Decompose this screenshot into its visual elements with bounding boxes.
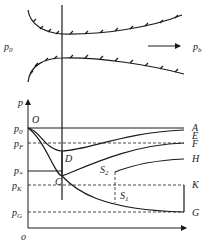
pK-label: pK <box>11 180 22 193</box>
point-D: D <box>64 153 73 164</box>
label-G: G <box>192 207 199 218</box>
pstar-label: p* <box>13 165 23 178</box>
label-H: H <box>191 153 200 164</box>
curve-H <box>115 159 184 172</box>
inlet-pressure-label: p0 <box>3 41 13 54</box>
pG-label: pG <box>11 207 22 220</box>
nozzle-pressure-diagram: p0 pb p o O p0 pF p* pK pG A E F H K G D… <box>0 0 204 248</box>
pF-label: pF <box>13 138 24 151</box>
point-O: O <box>32 114 39 125</box>
outlet-pressure-label: pb <box>192 41 202 54</box>
y-axis-label: p <box>17 97 23 108</box>
point-C: C <box>55 176 62 187</box>
nozzle-lower-wall <box>28 55 184 82</box>
label-K: K <box>191 179 200 190</box>
shock-S1-label: S1 <box>120 190 129 203</box>
origin-label: o <box>21 231 26 242</box>
label-F: F <box>191 138 199 149</box>
curve-E <box>28 128 184 151</box>
shock-S2-label: S2 <box>100 164 109 177</box>
nozzle-upper-wall <box>28 10 182 34</box>
p0-label: p0 <box>13 123 23 136</box>
